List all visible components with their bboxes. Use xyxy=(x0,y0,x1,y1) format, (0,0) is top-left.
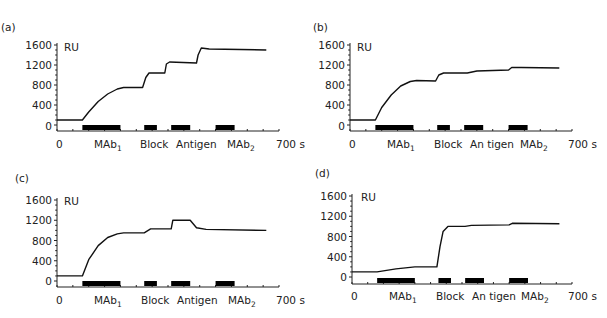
panel-label: (d) xyxy=(315,167,330,179)
injection-label: Antigen xyxy=(176,138,217,150)
injection-label: An tigen xyxy=(470,138,514,150)
injection-bar xyxy=(171,125,190,130)
injection-label: MAb1 xyxy=(94,138,122,153)
panel-label: (a) xyxy=(1,21,16,33)
injection-label: MAb1 xyxy=(389,290,417,305)
y-tick-label: 800 xyxy=(32,235,52,247)
injection-label: MAb1 xyxy=(94,294,122,309)
injection-bar xyxy=(509,278,528,283)
injection-label: MAb2 xyxy=(521,290,549,305)
x-tick-label: 0 xyxy=(349,138,356,150)
injection-label: Antigen xyxy=(177,294,218,306)
y-tick-label: 400 xyxy=(327,251,347,263)
injection-bar xyxy=(144,281,157,286)
injection-bar xyxy=(82,125,120,130)
x-tick-label: 700 s xyxy=(568,290,597,302)
y-tick-label: 400 xyxy=(32,255,52,267)
injection-label: Block xyxy=(436,290,465,302)
injection-label: Block xyxy=(141,294,170,306)
y-tick-label: 0 xyxy=(340,271,347,283)
y-tick-label: 0 xyxy=(338,120,345,132)
injection-bar xyxy=(82,281,120,286)
panel-c: (c) RU 1600 1200 800 400 0 0 700 s MAb1 … xyxy=(15,172,305,309)
y-tick-label: 1600 xyxy=(318,39,345,51)
sensorgram-curve xyxy=(352,223,559,272)
sensorgram-curve xyxy=(57,220,266,276)
y-tick-label: 1600 xyxy=(320,190,347,202)
panel-a: (a) RU 1600 1200 800 400 0 0 700 s MAb1 … xyxy=(1,21,305,153)
y-tick-label: 0 xyxy=(45,275,52,287)
panel-d: (d) RU 1600 1200 800 400 0 0 700 s MAb1 … xyxy=(315,167,597,305)
y-tick-label: 800 xyxy=(32,79,52,91)
y-tick-label: 800 xyxy=(325,79,345,91)
panel-label: (c) xyxy=(15,172,29,184)
x-tick-label: 0 xyxy=(351,290,358,302)
injection-bar xyxy=(437,125,450,130)
y-tick-label: 1200 xyxy=(320,210,347,222)
panel-label: (b) xyxy=(313,21,328,33)
injection-label: Block xyxy=(140,138,169,150)
y-tick-label: 1200 xyxy=(25,214,52,226)
injection-label: MAb2 xyxy=(227,138,255,153)
injection-label: MAb1 xyxy=(387,138,415,153)
injection-bar xyxy=(438,278,451,283)
x-tick-label: 0 xyxy=(56,294,63,306)
injection-bar xyxy=(375,125,413,130)
injection-label: Block xyxy=(434,138,463,150)
injection-bar xyxy=(171,281,190,286)
injection-label: MAb2 xyxy=(228,294,256,309)
y-tick-label: 1200 xyxy=(318,59,345,71)
y-tick-label: 1600 xyxy=(25,194,52,206)
y-axis-unit: RU xyxy=(357,41,372,53)
y-axis-unit: RU xyxy=(361,191,376,203)
x-tick-label: 700 s xyxy=(568,138,597,150)
sensorgram-figure: (a) RU 1600 1200 800 400 0 0 700 s MAb1 … xyxy=(0,0,607,318)
injection-label: MAb2 xyxy=(520,138,548,153)
y-tick-label: 0 xyxy=(45,120,52,132)
injection-bar xyxy=(465,278,484,283)
injection-bar xyxy=(144,125,157,130)
injection-bar xyxy=(509,125,528,130)
injection-bar xyxy=(216,281,235,286)
x-tick-label: 700 s xyxy=(276,294,305,306)
y-tick-label: 800 xyxy=(327,231,347,243)
injection-label: An tigen xyxy=(472,290,516,302)
sensorgram-curve xyxy=(57,48,266,120)
x-tick-label: 0 xyxy=(56,138,63,150)
x-tick-label: 700 s xyxy=(276,138,305,150)
y-axis-unit: RU xyxy=(64,195,79,207)
injection-bar xyxy=(377,278,415,283)
panel-b: (b) RU 1600 1200 800 400 0 0 700 s MAb1 … xyxy=(313,21,597,153)
y-tick-label: 1600 xyxy=(25,39,52,51)
y-axis-unit: RU xyxy=(64,41,79,53)
sensorgram-curve xyxy=(350,68,559,121)
y-tick-label: 400 xyxy=(32,99,52,111)
injection-bar xyxy=(464,125,483,130)
y-tick-label: 400 xyxy=(325,99,345,111)
injection-bar xyxy=(216,125,235,130)
y-tick-label: 1200 xyxy=(25,59,52,71)
